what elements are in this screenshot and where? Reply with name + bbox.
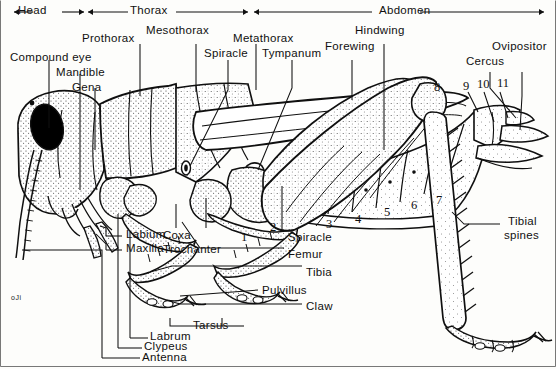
region-label-thorax: Thorax [130,5,168,17]
label-compound-eye: Compound eye [10,52,92,64]
label-tarsus: Tarsus [193,320,229,332]
label-tibia: Tibia [306,267,332,279]
artist-signature: oJi [11,294,21,301]
label-metathorax: Metathorax [233,33,294,45]
label-antenna: Antenna [142,352,187,364]
ovipositor-ventral [476,144,542,162]
label-labium: Labium [126,229,166,241]
label-maxilla: Maxilla [126,243,164,255]
label-cercus: Cercus [466,56,504,68]
label-tympanum: Tympanum [262,48,321,60]
label-tibial-spines-line1: Tibial [508,216,537,228]
ovipositor-dorsal [500,125,548,142]
segment-number-8: 8 [434,81,440,94]
label-claw: Claw [306,301,333,313]
label-forewing: Forewing [325,41,375,53]
region-label-abdomen: Abdomen [379,5,430,17]
label-gena: Gena [72,82,101,94]
segment-number-10: 10 [477,78,490,91]
label-ovipositor: Ovipositor [492,41,547,53]
label-femur: Femur [288,249,323,261]
label-tibial-spines-line2: spines [504,230,539,242]
label-mandible: Mandible [56,67,105,79]
segment-number-6: 6 [411,199,417,212]
label-spiracle-thorax: Spiracle [204,48,248,60]
label-hindwing: Hindwing [355,25,405,37]
terminal-abdomen [474,106,548,169]
anatomy-figure: Head Thorax Abdomen Compound eye Mandibl… [0,0,556,369]
region-bracket-rules [14,9,544,15]
label-coxa: Coxa [163,230,191,242]
segment-number-7: 7 [436,194,442,207]
segment-number-1: 1 [241,231,247,244]
segment-number-11: 11 [497,77,509,90]
label-mesothorax: Mesothorax [146,25,209,37]
label-trochanter: Trochanter [163,244,221,256]
segment-number-4: 4 [355,213,361,226]
prothorax [100,84,178,179]
segment-number-2: 2 [270,221,276,234]
segment-number-5: 5 [384,206,390,219]
region-label-head: Head [18,5,47,17]
label-prothorax: Prothorax [82,33,135,45]
label-pulvillus: Pulvillus [262,285,307,297]
label-spiracle-abdomen: Spiracle [288,232,332,244]
segment-number-3: 3 [326,218,332,231]
segment-number-9: 9 [463,80,469,93]
head-capsule [18,91,104,214]
